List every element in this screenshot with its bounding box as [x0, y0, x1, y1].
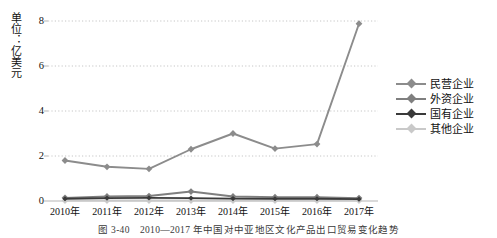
chart-legend: 民营企业 外资企业 国有企业 其他企业	[396, 76, 494, 136]
legend-swatch-icon-other	[396, 123, 426, 135]
series-line-0	[65, 24, 359, 169]
legend-item-private[interactable]: 民营企业	[396, 76, 494, 91]
series-0-point-2	[146, 165, 153, 172]
gridlines-group	[48, 21, 378, 156]
series-1-point-3	[188, 188, 195, 195]
series-0-point-0	[62, 157, 69, 164]
legend-label-foreign: 外资企业	[430, 93, 474, 105]
legend-diamond-icon-other	[407, 123, 417, 133]
figure-caption: 图 3-40 2010—2017 年中国对中亚地区文化产品出口贸易变化趋势	[0, 222, 497, 236]
series-0-point-6	[314, 141, 321, 148]
legend-item-state-owned[interactable]: 国有企业	[396, 106, 494, 121]
legend-swatch-icon-foreign	[396, 93, 426, 105]
series-0-point-5	[272, 145, 279, 152]
legend-diamond-icon-foreign	[407, 93, 417, 103]
legend-swatch-icon-private	[396, 78, 426, 90]
legend-diamond-icon-state-owned	[407, 108, 417, 118]
series-0-point-3	[188, 146, 195, 153]
legend-label-other: 其他企业	[430, 123, 474, 135]
legend-diamond-icon-private	[407, 78, 417, 88]
legend-label-state-owned: 国有企业	[430, 108, 474, 120]
legend-label-private: 民营企业	[430, 78, 474, 90]
legend-item-other[interactable]: 其他企业	[396, 121, 494, 136]
series-0-point-1	[104, 163, 111, 170]
figure-container: 单位：亿美元 8 6 4 2 0 2010年 2011年 2012年 2013年…	[0, 0, 497, 238]
series-lines-group	[62, 20, 363, 204]
legend-item-foreign[interactable]: 外资企业	[396, 91, 494, 106]
series-0-point-4	[230, 130, 237, 137]
legend-swatch-icon-state-owned	[396, 108, 426, 120]
